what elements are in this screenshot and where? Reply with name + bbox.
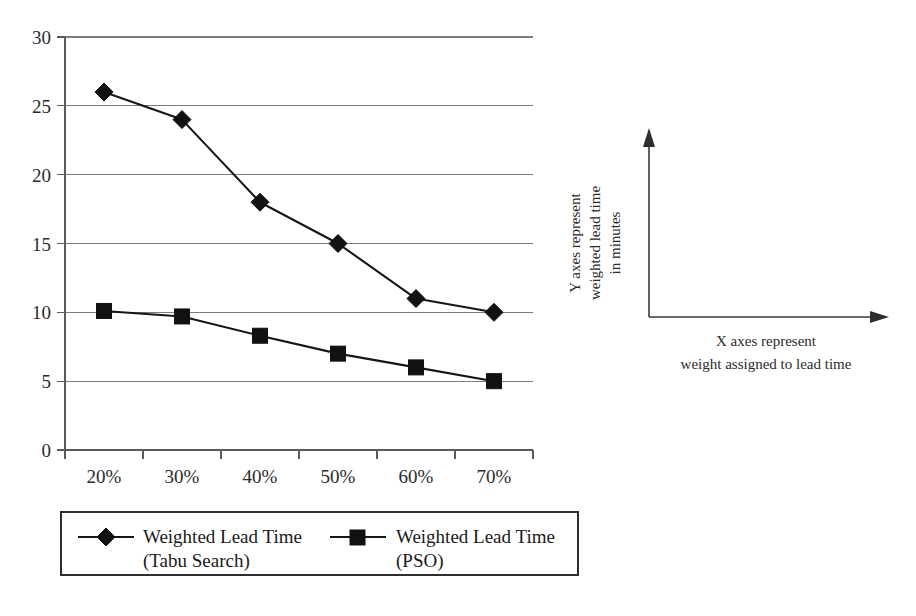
chart-legend: Weighted Lead Time (Tabu Search) Weighte… <box>61 512 578 575</box>
square-marker-icon <box>350 530 365 545</box>
diamond-data-point <box>485 303 503 321</box>
y-axis-tick-label: 15 <box>32 234 51 255</box>
x-axis-ticks <box>65 450 533 459</box>
square-data-point <box>175 309 190 324</box>
x-axis-tick-labels: 20%30%40%50%60%70% <box>87 466 512 487</box>
annotation-x-label-line2: weight assigned to lead time <box>681 356 852 372</box>
legend-label-tabu-search-line2: (Tabu Search) <box>143 550 250 572</box>
annotation-x-label-line1: X axes represent <box>716 333 817 349</box>
line-chart-figure: 051015202530 20%30%40%50%60%70% Weighted… <box>0 0 916 616</box>
x-axis-tick-label: 40% <box>243 466 278 487</box>
diamond-data-point <box>329 235 347 253</box>
diamond-data-point <box>407 290 425 308</box>
x-axis-tick-label: 60% <box>399 466 434 487</box>
y-axis-tick-label: 0 <box>42 440 52 461</box>
series-line <box>104 92 494 312</box>
annotation-y-label-line3: in minutes <box>607 211 623 274</box>
square-data-point <box>253 328 268 343</box>
annotation-y-label-line1: Y axes represent <box>567 192 583 292</box>
y-axis-ticks <box>57 37 65 450</box>
annotation-x-label: X axes represent weight assigned to lead… <box>681 333 852 372</box>
y-axis-tick-label: 10 <box>32 302 51 323</box>
annotation-y-label-line2: weighted lead time <box>587 186 603 300</box>
gridlines <box>65 37 533 381</box>
square-data-point <box>331 346 346 361</box>
y-axis-tick-label: 5 <box>42 371 52 392</box>
x-axis-tick-label: 50% <box>321 466 356 487</box>
series-tabu-search <box>95 83 503 321</box>
series-pso <box>97 303 502 388</box>
annotation-y-label: Y axes represent weighted lead time in m… <box>567 186 623 300</box>
x-axis-tick-label: 30% <box>165 466 200 487</box>
y-axis-tick-label: 20 <box>32 165 51 186</box>
axis-annotation-diagram: Y axes represent weighted lead time in m… <box>567 128 889 372</box>
square-data-point <box>97 303 112 318</box>
up-arrow-icon <box>643 128 655 147</box>
x-axis-tick-label: 20% <box>87 466 122 487</box>
legend-label-pso-line2: (PSO) <box>396 550 444 572</box>
square-data-point <box>409 360 424 375</box>
square-data-point <box>487 374 502 389</box>
y-axis-tick-label: 25 <box>32 96 51 117</box>
diamond-data-point <box>95 83 113 101</box>
legend-label-tabu-search-line1: Weighted Lead Time <box>143 526 302 547</box>
chart-page: 051015202530 20%30%40%50%60%70% Weighted… <box>0 0 916 616</box>
series-line <box>104 311 494 381</box>
x-axis-tick-label: 70% <box>477 466 512 487</box>
right-arrow-icon <box>870 311 889 323</box>
y-axis-tick-labels: 051015202530 <box>32 27 51 461</box>
legend-label-pso-line1: Weighted Lead Time <box>396 526 555 547</box>
y-axis-tick-label: 30 <box>32 27 51 48</box>
